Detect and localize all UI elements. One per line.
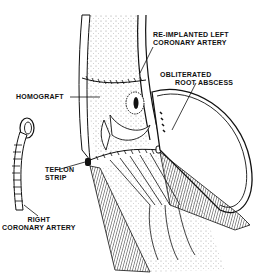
label-teflon-strip: TEFLON STRIP — [45, 166, 74, 182]
right-coronary-artery — [12, 118, 34, 210]
surgical-diagram — [0, 0, 272, 274]
label-line: OBLITERATED — [160, 71, 233, 79]
label-line: RIGHT — [2, 216, 76, 224]
label-obliterated-root-abscess: OBLITERATED ROOT ABSCESS — [160, 71, 233, 87]
teflon-strip — [85, 158, 91, 166]
label-homograft: HOMOGRAFT — [16, 93, 64, 101]
label-right-coronary-artery: RIGHT CORONARY ARTERY — [2, 216, 76, 232]
label-line: CORONARY ARTERY — [153, 39, 229, 47]
label-line: RE-IMPLANTED LEFT — [153, 31, 229, 39]
label-line: CORONARY ARTERY — [2, 224, 76, 232]
reimplanted-coronary-button — [126, 92, 144, 114]
label-reimplanted-left-coronary-artery: RE-IMPLANTED LEFT CORONARY ARTERY — [153, 31, 229, 47]
label-line: TEFLON — [45, 166, 74, 174]
label-line: ROOT ABSCESS — [160, 79, 233, 87]
label-line: STRIP — [45, 174, 74, 182]
